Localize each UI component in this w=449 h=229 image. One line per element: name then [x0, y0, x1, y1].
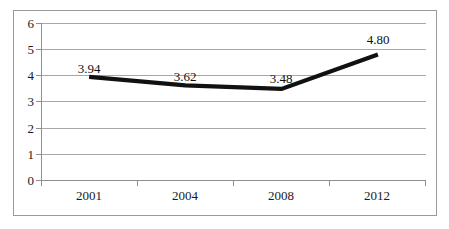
y-tick-6	[36, 23, 41, 24]
y-tick-2	[36, 128, 41, 129]
y-axis-label-4: 4	[8, 69, 34, 82]
y-axis-label-0: 0	[8, 174, 34, 187]
y-axis-label-2: 2	[8, 122, 34, 135]
y-axis-line	[41, 23, 42, 181]
x-axis-label-2012: 2012	[337, 189, 417, 203]
y-axis-label-5: 5	[8, 43, 34, 56]
x-axis-label-2008: 2008	[241, 189, 321, 203]
x-tick-boundary-2	[233, 180, 234, 186]
gridline-2	[41, 128, 426, 129]
y-axis-label-6: 6	[8, 17, 34, 30]
value-label-2008: 3.48	[256, 72, 306, 85]
gridline-6	[41, 23, 426, 24]
y-tick-3	[36, 101, 41, 102]
y-tick-1	[36, 154, 41, 155]
x-tick-boundary-3	[329, 180, 330, 186]
value-label-2001: 3.94	[64, 62, 114, 75]
x-tick-boundary-0	[41, 180, 42, 186]
y-axis-label-1: 1	[8, 148, 34, 161]
x-axis-label-2001: 2001	[49, 189, 129, 203]
value-label-2004: 3.62	[160, 70, 210, 83]
value-label-2012: 4.80	[353, 33, 403, 46]
y-tick-5	[36, 49, 41, 50]
y-tick-4	[36, 75, 41, 76]
x-axis-label-2004: 2004	[145, 189, 225, 203]
gridline-5	[41, 49, 426, 50]
x-tick-boundary-4	[425, 180, 426, 186]
y-axis-label-3: 3	[8, 95, 34, 108]
x-tick-boundary-1	[137, 180, 138, 186]
gridline-3	[41, 101, 426, 102]
gridline-1	[41, 154, 426, 155]
